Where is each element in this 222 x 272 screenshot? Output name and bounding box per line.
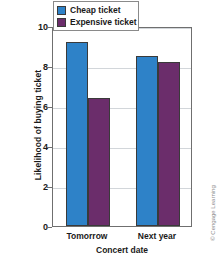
y-tick-label: 6: [24, 103, 48, 112]
y-tick-label: 2: [24, 183, 48, 192]
bar-tomorrow-cheap-ticket: [66, 42, 88, 226]
legend-swatch-icon-cheap: [57, 6, 66, 15]
plot-area: [52, 27, 192, 227]
legend-item-expensive-ticket: Expensive ticket: [55, 16, 136, 28]
bar-tomorrow-expensive-ticket: [88, 98, 110, 226]
copyright-credit: © Cengage Learning: [210, 168, 216, 258]
legend-label-cheap: Cheap ticket: [70, 6, 121, 15]
y-tick-label: 0: [24, 223, 48, 232]
y-tick-label: 4: [24, 143, 48, 152]
legend-item-cheap-ticket: Cheap ticket: [55, 4, 136, 16]
bar-next-year-cheap-ticket: [136, 56, 158, 226]
y-tick-label: 8: [24, 63, 48, 72]
x-axis-title: Concert date: [52, 245, 192, 255]
chart-legend: Cheap ticket Expensive ticket: [53, 1, 139, 31]
y-tick-mark: [47, 227, 52, 228]
x-tick-label: Tomorrow: [47, 231, 127, 241]
y-tick-label: 10: [24, 23, 48, 32]
bar-next-year-expensive-ticket: [158, 62, 180, 226]
bar-chart-figure: Likelihood of buying ticket 0246810 Chea…: [0, 0, 222, 272]
legend-label-expensive: Expensive ticket: [70, 18, 137, 27]
x-tick-label: Next year: [117, 231, 197, 241]
legend-swatch-icon-expensive: [57, 18, 66, 27]
